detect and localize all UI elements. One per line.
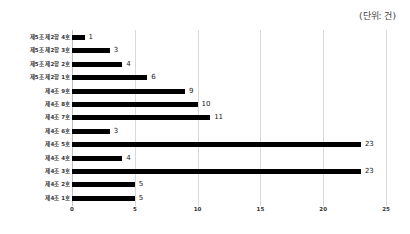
bar-row: 제4조 2호5 — [0, 178, 410, 191]
bar — [72, 115, 210, 120]
bar — [72, 35, 85, 40]
bar — [72, 142, 361, 147]
value-label: 23 — [365, 165, 374, 178]
bar — [72, 102, 198, 107]
bar-row: 제4조 3호23 — [0, 165, 410, 178]
bar-row: 제4조 9호9 — [0, 85, 410, 98]
category-label: 제4조 5호 — [45, 138, 70, 151]
value-label: 9 — [189, 85, 193, 98]
category-label: 제4조 4호 — [45, 152, 70, 165]
bar — [72, 169, 361, 174]
bar-row: 제5조 제2항 4호1 — [0, 31, 410, 44]
bar-chart: 제5조 제2항 4호1제5조 제2항 3호3제5조 제2항 2호4제5조 제2항… — [0, 0, 410, 234]
bar-row: 제5조 제2항 3호3 — [0, 44, 410, 57]
category-label: 제4조 2호 — [45, 178, 70, 191]
bar — [72, 48, 110, 53]
x-tick-label: 15 — [257, 206, 265, 212]
bar — [72, 156, 122, 161]
value-label: 3 — [114, 44, 118, 57]
value-label: 10 — [202, 98, 211, 111]
category-label: 제4조 6호 — [45, 125, 70, 138]
x-tick-label: 20 — [319, 206, 327, 212]
x-tick-label: 10 — [194, 206, 202, 212]
value-label: 4 — [126, 152, 130, 165]
category-label: 제5조 제2항 3호 — [30, 44, 70, 57]
bar — [72, 89, 185, 94]
value-label: 23 — [365, 138, 374, 151]
bar — [72, 62, 122, 67]
bar-row: 제4조 7호11 — [0, 111, 410, 124]
bar-row: 제5조 제2항 2호4 — [0, 58, 410, 71]
value-label: 1 — [89, 31, 93, 44]
category-label: 제4조 7호 — [45, 111, 70, 124]
value-label: 5 — [139, 178, 143, 191]
category-label: 제4조 8호 — [45, 98, 70, 111]
value-label: 4 — [126, 58, 130, 71]
value-label: 5 — [139, 192, 143, 205]
bar-row: 제5조 제2항 1호6 — [0, 71, 410, 84]
x-tick-label: 5 — [133, 206, 137, 212]
bar-row: 제4조 6호3 — [0, 125, 410, 138]
category-label: 제5조 제2항 1호 — [30, 71, 70, 84]
bar-row: 제4조 8호10 — [0, 98, 410, 111]
bar — [72, 75, 147, 80]
bar-row: 제4조 1호5 — [0, 192, 410, 205]
x-tick-label: 25 — [382, 206, 390, 212]
category-label: 제4조 1호 — [45, 192, 70, 205]
value-label: 11 — [214, 111, 223, 124]
category-label: 제4조 3호 — [45, 165, 70, 178]
category-label: 제4조 9호 — [45, 85, 70, 98]
bar-row: 제4조 4호4 — [0, 152, 410, 165]
value-label: 3 — [114, 125, 118, 138]
bar-row: 제4조 5호23 — [0, 138, 410, 151]
category-label: 제5조 제2항 2호 — [30, 58, 70, 71]
bar — [72, 182, 135, 187]
x-tick-label: 0 — [70, 206, 74, 212]
value-label: 6 — [151, 71, 155, 84]
bar — [72, 196, 135, 201]
category-label: 제5조 제2항 4호 — [30, 31, 70, 44]
bar — [72, 129, 110, 134]
